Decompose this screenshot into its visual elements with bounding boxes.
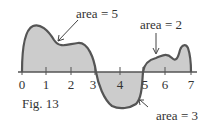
shaded-area-region-1 xyxy=(22,25,96,72)
tick-label-2: 2 xyxy=(68,78,75,91)
tick-label-0: 0 xyxy=(19,78,26,91)
tick-label-3: 3 xyxy=(90,78,97,91)
shaded-area-region-3 xyxy=(143,45,191,72)
tick-label-7: 7 xyxy=(188,78,195,91)
figure-caption: Fig. 13 xyxy=(22,97,59,110)
annotation-area-5: area = 5 xyxy=(76,7,118,20)
tick-label-6: 6 xyxy=(162,78,169,91)
tick-label-1: 1 xyxy=(43,78,50,91)
tick-label-4: 4 xyxy=(117,78,124,91)
annotation-area-3: area = 3 xyxy=(156,109,198,122)
tick-label-5: 5 xyxy=(142,78,149,91)
annotation-area-2: area = 2 xyxy=(140,18,182,31)
